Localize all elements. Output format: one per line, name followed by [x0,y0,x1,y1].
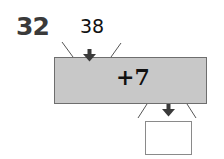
output-funnel-left-line [138,104,147,118]
input-arrow-down-icon [83,49,96,62]
operation-text: +7 [116,64,150,90]
operation-label: +7 [116,66,150,89]
input-funnel-right-line [111,43,121,57]
input-funnel-left-line [62,42,73,57]
answer-box[interactable] [145,121,192,155]
output-funnel-right-line [187,104,196,118]
output-arrow-down-icon [162,104,175,117]
input-value: 38 [80,17,104,36]
problem-number: 32 [16,14,49,39]
